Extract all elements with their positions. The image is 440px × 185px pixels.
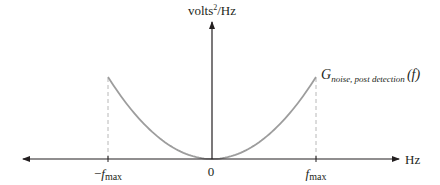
y-axis-label: volts2/Hz bbox=[188, 3, 236, 18]
x-axis-label: Hz bbox=[405, 152, 420, 167]
curve-label: Gnoise, post detection(f) bbox=[321, 67, 420, 84]
zero-label: 0 bbox=[208, 164, 215, 179]
pos-fmax-label: fmax bbox=[306, 166, 327, 182]
psd-diagram: volts2/Hz Hz Gnoise, post detection(f) −… bbox=[0, 0, 440, 185]
neg-fmax-label: −fmax bbox=[94, 166, 122, 182]
